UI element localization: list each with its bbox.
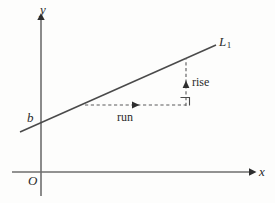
y-axis-label: y — [40, 3, 46, 16]
right-angle-marker — [181, 98, 190, 106]
run-label: run — [117, 111, 133, 123]
line-label-subscript: 1 — [226, 40, 231, 50]
line-slope-diagram: y x O b L1 rise run — [0, 0, 275, 203]
rise-label: rise — [192, 76, 209, 88]
line-label: L1 — [219, 35, 231, 50]
diagram-canvas — [0, 0, 275, 203]
x-axis-arrowhead — [249, 168, 257, 176]
x-axis-label: x — [259, 165, 265, 178]
origin-label: O — [28, 174, 37, 187]
y-intercept-label: b — [27, 111, 34, 124]
rise-arrowhead — [183, 81, 190, 89]
run-arrowhead — [132, 102, 140, 109]
